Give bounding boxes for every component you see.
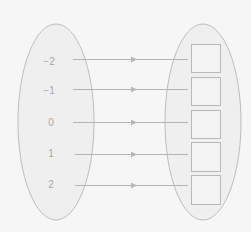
domain-value-2: 2 — [36, 179, 66, 191]
arrowhead-icon — [131, 87, 137, 93]
codomain-box-5 — [192, 176, 221, 205]
codomain-box-1 — [192, 45, 221, 73]
domain-value-0: 0 — [36, 117, 66, 129]
arrowhead-icon — [131, 57, 137, 63]
domain-value-neg1: −1 — [34, 85, 64, 97]
domain-value-neg2: −2 — [34, 56, 64, 68]
arrowhead-icon — [131, 152, 137, 158]
codomain-box-2 — [192, 78, 221, 106]
domain-value-1: 1 — [36, 148, 66, 160]
mapping-diagram — [0, 0, 251, 232]
arrowhead-icon — [131, 120, 137, 126]
codomain-box-4 — [192, 143, 221, 172]
arrowhead-icon — [131, 183, 137, 189]
codomain-box-3 — [192, 111, 221, 139]
